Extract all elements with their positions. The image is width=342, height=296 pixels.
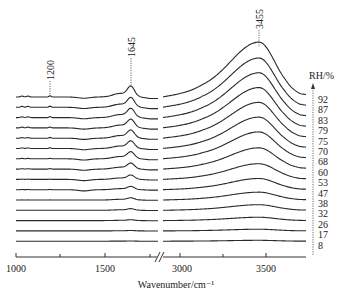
legend-entry-rh-47: 47 — [318, 188, 328, 199]
annotation-1200-label: 1200 — [45, 60, 56, 80]
x-axis-label: Wavenumber/cm⁻¹ — [138, 279, 214, 290]
legend-entry-rh-75: 75 — [318, 136, 328, 147]
spectrum-curve-rh-83 — [16, 73, 306, 119]
x-tick-3000: 3000 — [172, 263, 192, 274]
spectrum-curve-rh-79 — [16, 88, 306, 130]
up-arrow-icon — [311, 83, 315, 89]
legend-title: RH/% — [309, 70, 334, 81]
spectrum-curve-rh-87 — [16, 58, 306, 109]
spectrum-curve-rh-70 — [16, 117, 306, 150]
x-tick-1000: 1000 — [6, 263, 26, 274]
spectrum-curve-rh-8 — [16, 240, 306, 241]
spectrum-curve-rh-47 — [16, 179, 306, 191]
legend-entry-rh-60: 60 — [318, 167, 328, 178]
x-axis: 1000 1500 3000 3500 Wavenumber/cm⁻¹ — [6, 252, 306, 290]
legend-entry-rh-70: 70 — [318, 146, 328, 157]
spectrum-curve-rh-38 — [16, 192, 306, 200]
legend-entry-rh-92: 92 — [318, 94, 328, 105]
legend-entry-rh-38: 38 — [318, 198, 328, 209]
legend-entry-rh-53: 53 — [318, 177, 328, 188]
spectra-curves — [16, 42, 306, 241]
legend-entry-rh-87: 87 — [318, 104, 328, 115]
spectrum-curve-rh-53 — [16, 164, 306, 181]
legend-entry-rh-32: 32 — [318, 208, 328, 219]
rh-legend: RH/% 92878379757068605347383226178 — [309, 70, 334, 256]
legend-entry-rh-8: 8 — [318, 240, 323, 251]
spectrum-curve-rh-26 — [16, 217, 306, 220]
annotation-3455: 3455 — [254, 9, 265, 47]
ftir-spectra-chart: 1200 1645 3455 1000 1500 3000 3500 Waven… — [0, 0, 342, 296]
legend-entry-rh-17: 17 — [318, 229, 328, 240]
spectrum-curve-rh-32 — [16, 205, 306, 211]
legend-entry-rh-83: 83 — [318, 115, 328, 126]
legend-entry-rh-79: 79 — [318, 125, 328, 136]
x-tick-1500: 1500 — [95, 263, 115, 274]
annotation-1200: 1200 — [45, 60, 56, 96]
spectrum-curve-rh-17 — [16, 229, 306, 231]
annotation-3455-label: 3455 — [254, 9, 265, 29]
spectrum-curve-rh-92 — [16, 42, 306, 98]
legend-entry-rh-26: 26 — [318, 219, 328, 230]
annotation-1645: 1645 — [126, 37, 137, 86]
legend-entry-rh-68: 68 — [318, 156, 328, 167]
x-tick-3500: 3500 — [256, 263, 276, 274]
spectrum-curve-rh-75 — [16, 102, 306, 139]
spectrum-curve-rh-68 — [16, 132, 306, 160]
annotation-1645-label: 1645 — [126, 37, 137, 57]
